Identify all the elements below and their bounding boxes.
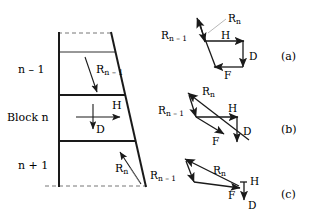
block-label-upper: n – 1 — [18, 64, 45, 75]
b-vector-f — [196, 117, 224, 134]
b-label-r-n-minus-1: Rn – 1 — [158, 105, 184, 117]
r-sub: n — [236, 17, 241, 26]
r-base: R — [161, 29, 169, 41]
r-sub: n – 1 — [166, 109, 184, 118]
b-label-f: F — [212, 136, 219, 147]
a-label-f: F — [224, 70, 231, 81]
block-column-outline — [45, 32, 150, 187]
block-vector-label-r-n-minus-1: Rn – 1 — [96, 64, 123, 77]
a-label-r-n: Rn — [228, 13, 241, 25]
leader-r-n — [130, 168, 140, 183]
r-sub: n — [221, 169, 226, 178]
block-vector-label-h: H — [112, 100, 122, 111]
c-label-r-n-minus-1: Rn – 1 — [150, 170, 176, 182]
a-vector-r-n — [197, 18, 216, 68]
r-base: R — [150, 169, 158, 181]
r-sub: n – 1 — [104, 68, 123, 77]
r-sub: n – 1 — [169, 34, 187, 43]
block-vector-label-d: D — [96, 124, 105, 135]
c-vector-r-n — [185, 159, 239, 186]
r-sub: n — [123, 167, 128, 176]
r-base: R — [202, 85, 210, 97]
a-label-r-n-minus-1: Rn – 1 — [161, 30, 187, 42]
b-label-r-n: Rn — [202, 86, 215, 98]
caption-c: (c) — [281, 189, 296, 200]
caption-b: (b) — [281, 124, 297, 135]
block-label-middle: Block n — [7, 112, 49, 123]
c-vector-r-n-minus-1 — [186, 161, 194, 182]
r-base: R — [158, 104, 166, 116]
block-label-lower: n + 1 — [18, 160, 48, 171]
figure-canvas: n – 1 Block n n + 1 Rn – 1 H D Rn Rn – 1… — [0, 0, 310, 222]
r-sub: n — [210, 90, 215, 99]
caption-a: (a) — [281, 51, 296, 62]
block-vector-label-r-n: Rn — [115, 163, 128, 176]
b-label-d: D — [243, 126, 251, 137]
a-label-h: H — [221, 30, 230, 41]
c-label-d: D — [248, 200, 256, 211]
c-label-f: F — [228, 190, 235, 201]
r-base: R — [228, 12, 236, 24]
c-label-r-n: Rn — [213, 165, 226, 177]
b-label-h: H — [228, 103, 237, 114]
a-label-d: D — [249, 51, 257, 62]
r-base: R — [213, 164, 221, 176]
r-sub: n – 1 — [158, 174, 176, 183]
c-label-h: H — [250, 176, 259, 187]
